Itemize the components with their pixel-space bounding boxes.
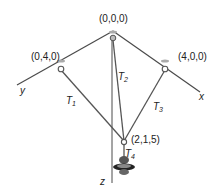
label-y-anchor: (0,4,0) [31, 51, 60, 62]
tension-label-t1: T1 [66, 95, 76, 107]
axis-label-z: z [99, 176, 105, 187]
tension-label-t4: T4 [125, 148, 135, 160]
label-x-anchor: (4,0,0) [178, 51, 207, 62]
anchor-origin [109, 31, 117, 41]
tension-label-t3: T3 [153, 101, 163, 113]
label-origin: (0,0,0) [99, 13, 128, 24]
label-junction: (2,1,5) [131, 134, 160, 145]
cable-t2 [113, 40, 124, 141]
junction-ring [121, 139, 126, 144]
axis-label-y: y [19, 85, 26, 96]
tension-diagram: (0,0,0) (0,4,0) (4,0,0) (2,1,5) y x z T1… [0, 0, 219, 192]
axis-label-x: x [198, 91, 205, 102]
tension-label-t2: T2 [118, 71, 128, 83]
